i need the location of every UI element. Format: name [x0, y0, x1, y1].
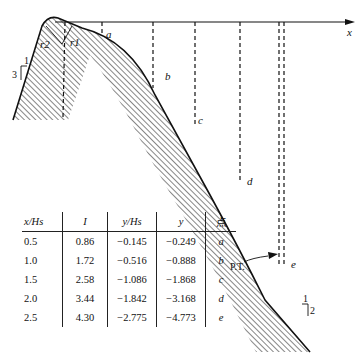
cell: −0.145	[108, 232, 157, 252]
cell: e	[206, 308, 237, 327]
cell: −1.842	[108, 289, 157, 308]
cell: a	[206, 232, 237, 252]
cell: c	[206, 270, 237, 289]
header-point: 点	[206, 212, 237, 232]
table-header-row: x/Hs I y/Hs y 点	[22, 212, 236, 232]
radius-r2-label: r2	[40, 38, 50, 50]
cell: −1.086	[108, 270, 157, 289]
cell: 2.5	[22, 308, 63, 327]
cell: 1.0	[22, 251, 63, 270]
downstream-slope-run: 1	[303, 293, 308, 304]
radius-r1-label: r1	[70, 36, 80, 48]
point-e-label: e	[291, 258, 296, 270]
table-row: 2.0 3.44 −1.842 −3.168 d	[22, 289, 236, 308]
point-c-label: c	[198, 114, 203, 126]
cell: 2.58	[63, 270, 108, 289]
header-y: y	[157, 212, 206, 232]
cell: −1.868	[157, 270, 206, 289]
point-b-label: b	[165, 70, 171, 82]
cell: b	[206, 251, 237, 270]
point-a-label: a	[106, 28, 112, 40]
cell: d	[206, 289, 237, 308]
header-y-hs: y/Hs	[108, 212, 157, 232]
header-i: I	[63, 212, 108, 232]
table-row: 1.5 2.58 −1.086 −1.868 c	[22, 270, 236, 289]
cell: 0.5	[22, 232, 63, 252]
cell: −4.773	[157, 308, 206, 327]
cell: −2.775	[108, 308, 157, 327]
upstream-slope-run: 1	[24, 55, 29, 66]
cell: 1.72	[63, 251, 108, 270]
table-row: 1.0 1.72 −0.516 −0.888 b	[22, 251, 236, 270]
tangent-point-leader	[244, 252, 278, 262]
table-row: 0.5 0.86 −0.145 −0.249 a	[22, 232, 236, 252]
upstream-slope-rise: 3	[12, 69, 17, 80]
cell: 2.0	[22, 289, 63, 308]
cell: 3.44	[63, 289, 108, 308]
downstream-slope-indicator	[302, 304, 308, 316]
cell: 1.5	[22, 270, 63, 289]
coordinate-table: x/Hs I y/Hs y 点 0.5 0.86 −0.145 −0.249 a…	[22, 212, 236, 327]
cell: −0.249	[157, 232, 206, 252]
point-d-label: d	[247, 175, 253, 187]
cell: 0.86	[63, 232, 108, 252]
header-x-hs: x/Hs	[22, 212, 63, 232]
cell: −3.168	[157, 289, 206, 308]
table-row: 2.5 4.30 −2.775 −4.773 e	[22, 308, 236, 327]
cell: 4.30	[63, 308, 108, 327]
downstream-slope-rise: 2	[310, 305, 315, 316]
cell: −0.516	[108, 251, 157, 270]
x-axis-label: x	[346, 26, 352, 38]
cell: −0.888	[157, 251, 206, 270]
